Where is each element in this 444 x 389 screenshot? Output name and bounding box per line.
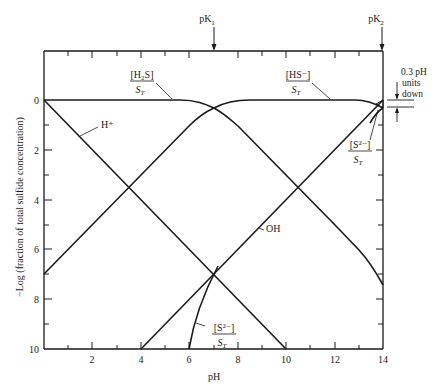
sulfide-speciation-chart: 2 4 6 8 10 12 14 0 2 4 6 8 10 pH −Log (f…: [0, 0, 444, 389]
y-tick-8: 8: [34, 294, 39, 305]
leader-line: [259, 228, 264, 230]
y-axis-ticks: [44, 125, 52, 324]
y-tick-labels: 0 2 4 6 8 10: [29, 95, 39, 355]
leader-line: [80, 127, 98, 136]
y-tick-2: 2: [34, 145, 39, 156]
s2-numerator: [S²⁻]: [350, 139, 371, 150]
x-tick-labels: 2 4 6 8 10 12 14: [90, 354, 389, 365]
y-tick-4: 4: [34, 195, 39, 206]
h2s-numerator: [H₂S]: [131, 69, 154, 80]
pk2-sub: 2: [380, 19, 384, 27]
arrow-down-icon: [395, 94, 399, 100]
x-tick-8: 8: [236, 354, 241, 365]
st-sub: T: [297, 89, 302, 97]
s2-numerator: [S²⁻]: [214, 322, 235, 333]
shift-annotation: 0.3 pH units down: [387, 67, 427, 122]
pk2-marker: pK2: [368, 13, 384, 51]
x-tick-14: 14: [378, 354, 388, 365]
x-tick-12: 12: [330, 354, 340, 365]
leader-line: [156, 83, 172, 99]
y-tick-6: 6: [34, 244, 39, 255]
label-hs: [HS⁻] ST: [286, 69, 330, 99]
x-tick-10: 10: [281, 354, 291, 365]
curve-s2-low: [189, 266, 218, 349]
x-tick-4: 4: [139, 354, 144, 365]
x-axis-title: pH: [208, 371, 220, 382]
right-ticks: [376, 125, 383, 324]
svg-text:ST: ST: [354, 154, 364, 167]
svg-text:ST: ST: [218, 337, 228, 350]
annotation-line-2: units: [402, 78, 421, 88]
annotation-line-1: 0.3 pH: [401, 67, 427, 77]
svg-text:ST: ST: [136, 84, 146, 97]
label-hplus: H⁺: [80, 119, 114, 136]
pk1-label: pK: [199, 13, 212, 24]
top-ticks: [68, 51, 359, 58]
hplus-label: H⁺: [101, 119, 114, 130]
y-tick-0: 0: [34, 95, 39, 106]
annotation-line-3: down: [402, 89, 423, 99]
plot-frame: [44, 51, 383, 349]
arrow-up-icon: [395, 107, 399, 113]
curve-h2s: [44, 100, 383, 285]
pk2-label: pK: [368, 13, 381, 24]
arrow-down-icon: [380, 44, 385, 51]
curves: [44, 100, 383, 349]
label-s2-low: [S²⁻] ST: [196, 322, 236, 350]
pk1-marker: pK1: [199, 13, 216, 51]
leader-line: [370, 110, 378, 140]
x-axis-ticks: [68, 342, 359, 349]
x-tick-2: 2: [90, 354, 95, 365]
pk1-sub: 1: [211, 19, 215, 27]
label-h2s: [H₂S] ST: [130, 69, 172, 99]
y-axis-title: −Log (fraction of total sulfide concentr…: [14, 117, 26, 297]
st-sub: T: [141, 89, 146, 97]
oh-label: OH: [266, 223, 280, 234]
curve-hs: [44, 100, 383, 274]
hs-numerator: [HS⁻]: [286, 69, 311, 80]
svg-text:pK2: pK2: [368, 13, 384, 27]
svg-text:pK1: pK1: [199, 13, 215, 27]
svg-text:ST: ST: [292, 84, 302, 97]
y-tick-10: 10: [29, 344, 39, 355]
st-sub: T: [359, 159, 364, 167]
leader-line: [196, 323, 205, 326]
leader-line: [312, 83, 330, 99]
x-tick-6: 6: [187, 354, 192, 365]
arrow-down-icon: [212, 44, 217, 51]
